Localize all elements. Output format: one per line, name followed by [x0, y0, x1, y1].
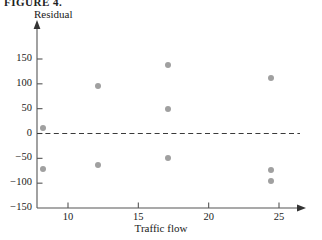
y-tick-label: −100: [4, 176, 32, 187]
x-tick-label: 20: [194, 211, 224, 222]
data-point: [268, 178, 274, 184]
y-tick-label: 150: [4, 52, 32, 63]
data-point: [268, 75, 274, 81]
y-tick-label: 100: [4, 77, 32, 88]
x-tick-label: 10: [53, 211, 83, 222]
residual-plot-figure: FIGURE 4. Residual Traffic flow 15010050…: [0, 0, 322, 240]
plot-canvas: [0, 0, 322, 240]
data-point: [268, 167, 274, 173]
y-tick-label: −150: [4, 201, 32, 212]
data-point: [40, 125, 46, 131]
x-tick-label: 25: [264, 211, 294, 222]
y-tick-label: 50: [4, 102, 32, 113]
y-tick-label: −50: [4, 151, 32, 162]
axes-group: [34, 20, 306, 212]
x-tick-label: 15: [123, 211, 153, 222]
data-point: [95, 83, 101, 89]
data-point: [165, 62, 171, 68]
data-point: [40, 166, 46, 172]
data-point: [165, 106, 171, 112]
y-tick-label: 0: [4, 127, 32, 138]
data-point: [95, 162, 101, 168]
